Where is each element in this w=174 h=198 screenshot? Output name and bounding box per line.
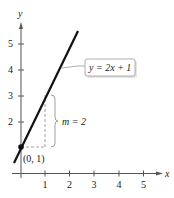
- x-tick-label: 5: [141, 179, 146, 190]
- y-axis: y 2 3 4 5: [8, 8, 24, 178]
- y-tick-label: 4: [8, 64, 13, 75]
- equation-callout: y = 2x + 1: [62, 59, 137, 78]
- x-tick-label: 4: [117, 179, 122, 190]
- x-axis-arrow-icon: [156, 172, 163, 176]
- y-tick-label: 3: [8, 90, 13, 101]
- slope-brace: [51, 95, 58, 147]
- x-axis: x 1 2 3 4 5: [12, 168, 170, 190]
- line-y-2x-plus-1: [14, 31, 78, 163]
- y-tick-label: 5: [8, 38, 13, 49]
- y-axis-arrow-icon: [19, 22, 23, 29]
- point-0-1: [18, 144, 24, 150]
- point-label: (0, 1): [23, 153, 45, 165]
- x-tick-label: 2: [67, 179, 72, 190]
- y-tick-label: 2: [8, 116, 13, 127]
- line-graph: y 2 3 4 5 x 1 2 3 4 5 m = 2 (0, 1): [0, 0, 174, 198]
- x-tick-label: 3: [92, 179, 97, 190]
- x-axis-label: x: [164, 168, 170, 179]
- slope-label: m = 2: [62, 116, 86, 127]
- y-axis-label: y: [17, 8, 23, 19]
- equation-label: y = 2x + 1: [88, 62, 131, 73]
- x-tick-label: 1: [43, 179, 48, 190]
- chart-container: y 2 3 4 5 x 1 2 3 4 5 m = 2 (0, 1): [0, 0, 174, 198]
